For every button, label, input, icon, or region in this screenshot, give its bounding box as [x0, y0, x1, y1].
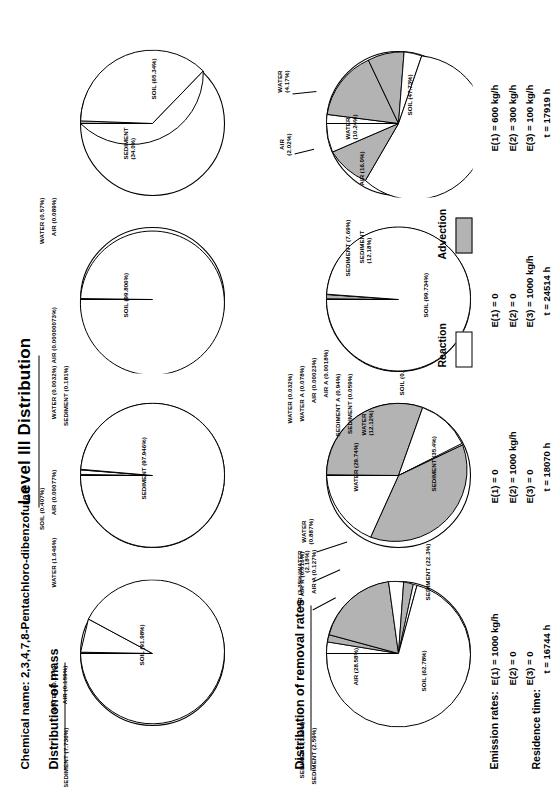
pie-label-removal-3-3: AIR A (0.0018%) — [322, 349, 329, 445]
chemical-name: Chemical name: 2,3,4,7,8-Pentachloro-dib… — [18, 487, 31, 769]
emission-rate-c1-e3: E(3) = 0 — [524, 651, 535, 685]
pie-label-removal-4-2: WATER (10.24%) — [344, 99, 358, 139]
pie-label-removal-2-0: AIR R (0.016%) — [298, 551, 305, 631]
pie-label-removal-2-5: SEDIMENT (35.4%) — [430, 436, 437, 491]
page-title: Level III Distribution — [14, 337, 33, 504]
pie-label-mass-3-1: WATER (0.0032%) — [50, 365, 57, 443]
pie-label-mass-4-0: AIR (0.089%) — [50, 197, 57, 289]
pie-chart-mass-3 — [78, 225, 226, 373]
pie-label-mass-2-3: SEDIMENT (97.946%) — [140, 437, 147, 499]
pie-chart-removal-1 — [324, 579, 472, 727]
page-title-rule — [38, 355, 39, 507]
pie-label-removal-2-1: AIR A (0.127%) — [310, 549, 317, 623]
legend-swatch-reaction — [455, 331, 472, 367]
page-frame: Level III Distribution Chemical name: 2,… — [0, 0, 551, 787]
pie-chart-mass-1 — [78, 579, 226, 727]
residence-time-c1: t = 16744 h — [541, 624, 551, 673]
pie-label-removal-1-5: WATER (0.887%) — [300, 509, 314, 553]
emission-rate-c2-e2: E(2) = 1000 kg/h — [507, 431, 518, 503]
pie-label-mass-2-2: AIR (0.00077%) — [50, 469, 57, 547]
pie-label-removal-1-2: AIR (28.58%) — [352, 648, 359, 685]
pie-label-removal-2-3: WATER (12.12%) — [360, 393, 374, 435]
emission-rate-c2-e3: E(3) = 0 — [524, 469, 535, 503]
pie-label-mass-1-2: AIR (0.159%) — [61, 665, 68, 743]
pie-label-removal-3-6: SOIL (99.734%) — [422, 272, 429, 317]
leader-line-removal-4-b — [292, 90, 316, 94]
pie-label-removal-3-1: WATER A (0.078%) — [298, 365, 305, 461]
pie-label-removal-4-6: SEDIMENT (7.69%) — [344, 219, 351, 317]
residence-time-heading: Residence time: — [530, 688, 542, 769]
pie-label-mass-2-1: SOIL (0.407%) — [38, 487, 45, 553]
emission-rate-c3-e1: E(1) = 0 — [489, 293, 500, 327]
emission-rate-c3-e3: E(3) = 1000 kg/h — [524, 255, 535, 327]
pie-label-removal-1-1: SEDIMENT (1.63%) — [298, 721, 305, 787]
pie-label-removal-4-1: AIR (16.0%) — [358, 151, 365, 185]
residence-time-c2: t = 18070 h — [541, 442, 551, 491]
pie-label-removal-3-5: SEDIMENT (0.059%) — [346, 373, 353, 477]
pie-label-mass-4-1: WATER (0.57%) — [38, 197, 45, 267]
residence-time-c4: t = 17919 h — [541, 88, 551, 137]
pie-label-removal-3-0: WATER (0.032%) — [286, 373, 293, 469]
legend-label-advection: Advection — [436, 208, 448, 259]
pie-label-mass-4-2: SEDIMENT (34.0%) — [122, 107, 136, 159]
pie-label-removal-3-2: AIR (0.00023%) — [310, 357, 317, 453]
legend-label-reaction: Reaction — [436, 323, 448, 367]
emission-rate-c4-e1: E(1) = 600 kg/h — [489, 84, 500, 151]
pie-label-removal-1-0: SEDIMENT (2.59%) — [310, 727, 317, 787]
pie-chart-mass-2 — [78, 401, 226, 549]
pie-label-removal-4-3: WATER (4.17%) — [276, 61, 290, 101]
pie-label-mass-1-3: SOIL (91.98%) — [138, 624, 145, 665]
emission-rate-c4-e2: E(2) = 300 kg/h — [507, 84, 518, 151]
pie-label-removal-4-4: SOIL (47.73%) — [406, 74, 413, 115]
pie-label-removal-1-6: SOIL (62.78%) — [420, 650, 427, 691]
pie-label-mass-2-0: WATER (1.646%) — [50, 537, 57, 627]
document-sheet: Level III Distribution Chemical name: 2,… — [0, 0, 551, 787]
emission-rate-c1-e2: E(2) = 0 — [507, 651, 518, 685]
pie-label-removal-4-5: SEDIMENT (12.18%) — [358, 219, 372, 263]
emission-rates-heading: Emission rates: — [488, 691, 500, 769]
emission-rate-c4-e3: E(3) = 100 kg/h — [524, 84, 535, 151]
pie-label-mass-3-3: SOIL (99.806%) — [122, 272, 129, 317]
pie-label-mass-3-0: SEDIMENT (0.181%) — [62, 365, 69, 461]
pie-label-removal-4-0: AIR (2.02%) — [278, 127, 292, 161]
pie-label-removal-3-4: SEDIMENT A (0.94%) — [334, 373, 341, 481]
residence-time-c3: t = 24514 h — [541, 266, 551, 315]
pie-label-removal-2-6: SEDIMENT (22.3%) — [424, 543, 431, 627]
pie-label-mass-4-3: SOIL (65.34%) — [150, 58, 157, 99]
legend-swatch-advection — [455, 217, 472, 253]
pie-label-mass-1-1: WATER (0.13%) — [50, 665, 57, 749]
emission-rate-c3-e2: E(2) = 0 — [507, 293, 518, 327]
leader-line-removal-4-a — [294, 148, 314, 154]
emission-rate-c2-e1: E(1) = 0 — [489, 469, 500, 503]
emission-rate-c1-e1: E(1) = 1000 kg/h — [489, 613, 500, 685]
